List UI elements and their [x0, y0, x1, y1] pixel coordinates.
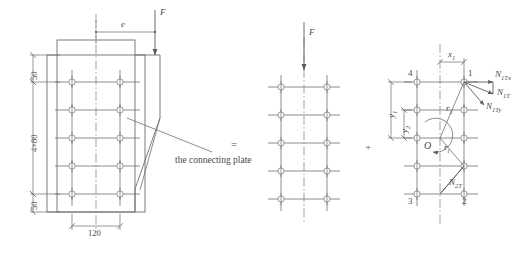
bolt — [117, 132, 123, 144]
bolt — [461, 104, 467, 116]
gusset-outline — [135, 55, 160, 212]
bolt-number-4: 4 — [408, 69, 413, 78]
bolt — [117, 104, 123, 116]
force-label-center: F — [309, 28, 315, 37]
ri-sub: i — [448, 147, 450, 154]
y2-sub: 2 — [404, 126, 411, 129]
eccentricity-label: e — [121, 20, 125, 29]
bolt — [69, 160, 75, 172]
diagram-vector-layer — [0, 0, 522, 259]
bolt — [414, 104, 420, 116]
bolt — [69, 76, 75, 88]
bolt — [278, 165, 284, 177]
bolt — [324, 165, 330, 177]
dimension-bolt-gauge: 120 — [88, 228, 101, 238]
bolt — [69, 132, 75, 144]
r1-sub: 1 — [450, 108, 453, 115]
force-label-n1T: N1T — [497, 88, 510, 99]
n2T-sub: 2T — [455, 182, 462, 189]
force-label-n2T: N2T — [449, 178, 462, 189]
force-label-left: F — [160, 8, 166, 17]
bolt — [414, 188, 420, 200]
n1T-sub: 1T — [503, 92, 510, 99]
bolt — [324, 109, 330, 121]
bolt — [278, 137, 284, 149]
y2-base: y — [399, 129, 409, 133]
bolt — [324, 81, 330, 93]
ri-label: ri — [444, 143, 449, 154]
force-n1Ty-vector — [464, 82, 484, 105]
bolt — [278, 109, 284, 121]
n1Ty-sub: 1Ty — [492, 106, 501, 113]
connecting-plate-annotation: the connecting plate — [175, 155, 252, 165]
right-panel-geometry — [388, 44, 493, 226]
center-panel-geometry — [268, 22, 340, 222]
bolt — [278, 81, 284, 93]
bolt — [324, 193, 330, 205]
bolt — [414, 132, 420, 144]
bolt-number-3: 3 — [408, 197, 413, 206]
centroid-label: O — [424, 141, 431, 151]
bolt — [117, 76, 123, 88]
force-label-n1Ty: N1Ty — [486, 102, 501, 113]
plus-operator: + — [365, 141, 371, 153]
bolt — [117, 160, 123, 172]
bolt — [69, 104, 75, 116]
bolt-number-1: 1 — [468, 69, 473, 78]
force-label-n1Tx: N1Tx — [495, 70, 511, 81]
dimension-bolt-rows: 4×80 — [29, 134, 39, 152]
y2-dimension-label: y2 — [400, 126, 411, 133]
bolt-number-2: 2 — [462, 197, 467, 206]
y1-sub: 1 — [391, 111, 398, 114]
bolt — [414, 160, 420, 172]
bolt — [461, 132, 467, 144]
left-panel-geometry — [30, 10, 212, 232]
bolt — [324, 137, 330, 149]
y1-base: y — [386, 114, 396, 118]
bolt — [69, 188, 75, 200]
y1-dimension-label: y1 — [387, 111, 398, 118]
n1Tx-sub: 1Tx — [501, 74, 511, 81]
dimension-top-edge: 50 — [29, 72, 39, 81]
x1-sub: 1 — [452, 54, 455, 61]
figure-root: e F 50 4×80 50 120 the connecting plate … — [0, 0, 522, 259]
dimension-bottom-edge: 50 — [29, 202, 39, 211]
connecting-plate-leader — [127, 118, 212, 190]
force-n1T-resultant — [464, 82, 493, 94]
bolt — [414, 76, 420, 88]
bolt — [278, 193, 284, 205]
left-bolt-gauge-lines — [55, 82, 140, 194]
x1-dimension-label: x1 — [448, 50, 455, 61]
bolt — [117, 188, 123, 200]
r1-label: r1 — [446, 104, 453, 115]
equals-operator: = — [231, 138, 237, 150]
